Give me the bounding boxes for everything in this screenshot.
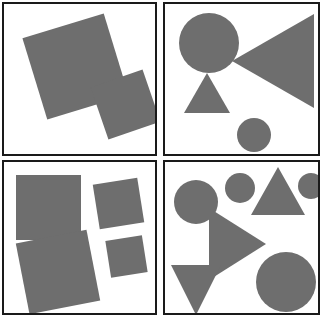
square-small-rotated-lower-right [105,235,147,277]
panel-top-left [2,2,157,156]
square-medium-rotated-upper-right [93,178,144,229]
triangle-down-pointing [171,265,221,315]
triangle-up-pointing-small [184,73,230,113]
square-large-rotated-lower-left [16,230,100,314]
circle-large [179,13,239,73]
circle-tiny-top-right [298,173,320,199]
triangle-left-pointing-large [232,14,314,108]
shape-comparison-figure [0,0,323,318]
panel-bottom-left [2,160,157,315]
panel-top-right [163,2,320,156]
square-large-upright [16,175,81,240]
circle-small [237,118,271,152]
circle-large-bottom-right [256,252,316,312]
panel-bottom-right [163,160,320,315]
